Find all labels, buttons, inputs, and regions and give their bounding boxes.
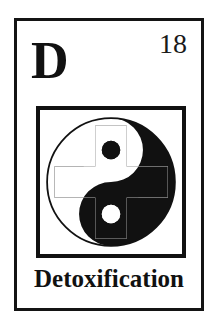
pictogram-frame <box>36 106 186 258</box>
card-frame: D 18 <box>14 18 204 311</box>
yin-yang-cross-icon <box>40 110 182 254</box>
card-header: D 18 <box>17 21 201 106</box>
element-name: Detoxification <box>17 264 201 294</box>
element-symbol: D <box>31 35 69 87</box>
atomic-number: 18 <box>159 29 187 59</box>
pictogram-ink <box>40 111 182 253</box>
element-card: D 18 <box>0 0 219 329</box>
